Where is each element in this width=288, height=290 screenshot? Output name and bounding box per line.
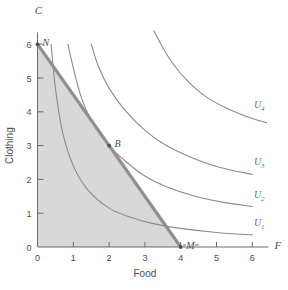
y-tick-label: 3 — [26, 141, 31, 151]
y-origin-label: 0 — [26, 243, 31, 253]
point-marker-b — [107, 144, 111, 148]
x-tick-label: 4 — [178, 253, 183, 263]
y-tick-label: 2 — [26, 175, 31, 185]
indifference-curve-u4 — [154, 31, 267, 123]
x-tick-label: 6 — [250, 253, 255, 263]
point-marker-m — [179, 245, 183, 249]
curve-label-subscript: 4 — [261, 105, 265, 113]
chart-canvas: 01234561234560 NBM FoodClothingCFU1U2U3U… — [0, 0, 288, 290]
curve-label-subscript: 1 — [261, 223, 265, 231]
point-label-b: B — [115, 138, 121, 149]
vertical-axis-letter: C — [35, 4, 43, 16]
curve-label-u1: U1 — [254, 217, 265, 231]
curve-label-subscript: 3 — [260, 162, 265, 170]
y-tick-label: 4 — [26, 107, 31, 117]
curve-label-subscript: 2 — [261, 195, 265, 203]
point-label-n: N — [42, 37, 51, 48]
curve-label-u2: U2 — [254, 189, 265, 203]
horizontal-axis-letter: F — [273, 239, 281, 251]
x-axis-title: Food — [134, 268, 157, 279]
y-tick-label: 5 — [26, 74, 31, 84]
point-marker-n — [36, 42, 40, 46]
x-tick-label: 1 — [71, 253, 76, 263]
x-tick-label: 3 — [142, 253, 147, 263]
indifference-curve-chart: 01234561234560 NBM FoodClothingCFU1U2U3U… — [0, 0, 288, 290]
y-tick-label: 6 — [26, 40, 31, 50]
point-label-m: M — [185, 240, 195, 251]
curve-label-u4: U4 — [254, 99, 265, 113]
x-tick-label: 5 — [214, 253, 219, 263]
x-tick-label: 2 — [107, 253, 112, 263]
curve-label-u3: U3 — [254, 156, 265, 170]
y-tick-label: 1 — [26, 209, 31, 219]
x-tick-label: 0 — [35, 253, 40, 263]
y-axis-title: Clothing — [4, 127, 15, 164]
